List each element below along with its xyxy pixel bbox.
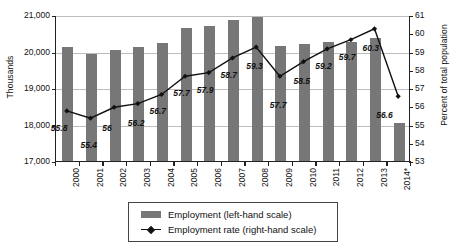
- y-axis-title-right: Percent of total population: [439, 20, 449, 130]
- x-axis-tick: [363, 161, 364, 166]
- x-axis-tick: [221, 161, 222, 166]
- x-axis-tick: [197, 161, 198, 166]
- legend-item-employment: Employment (left-hand scale): [129, 207, 337, 222]
- x-axis-label-2007: 2007: [237, 168, 247, 187]
- x-axis-tick: [315, 161, 316, 166]
- y-axis-tick-label-left: 20,000: [24, 47, 50, 57]
- data-label-2010: 58.5: [294, 76, 311, 86]
- data-label-2014: 56.6: [376, 110, 393, 120]
- data-label-2013: 60.3: [363, 43, 380, 53]
- chart-legend: Employment (left-hand scale) Employment …: [128, 202, 338, 242]
- data-point-marker-2001: [88, 116, 93, 121]
- y-axis-tick-label-right: 59: [415, 47, 424, 57]
- data-label-2007: 58.7: [221, 70, 238, 80]
- y-axis-tick-label-right: 58: [415, 65, 424, 75]
- legend-label-employment: Employment (left-hand scale): [168, 209, 292, 220]
- x-axis-label-2005: 2005: [189, 168, 199, 187]
- x-axis-tick: [79, 161, 80, 166]
- y-axis-tick-label-left: 17,000: [24, 156, 50, 166]
- y-axis-tick-label-right: 53: [415, 156, 424, 166]
- legend-item-employment-rate: Employment rate (right-hand scale): [129, 222, 337, 237]
- employment-rate-line-series: [55, 16, 410, 162]
- employment-chart: Thousands Percent of total population 17…: [0, 0, 462, 251]
- y-axis-tick-label-left: 21,000: [24, 10, 50, 20]
- x-axis-label-2003: 2003: [142, 168, 152, 187]
- data-label-2011: 59.2: [315, 61, 332, 71]
- x-axis-tick: [244, 161, 245, 166]
- y-axis-tick-label-right: 56: [415, 101, 424, 111]
- x-axis-label-2013: 2013: [379, 168, 389, 187]
- x-axis-tick: [410, 161, 411, 166]
- y-axis-tick-label-right: 60: [415, 28, 424, 38]
- data-label-2006: 57.9: [197, 85, 214, 95]
- x-axis-label-2001: 2001: [95, 168, 105, 187]
- data-label-2012: 59.7: [339, 52, 356, 62]
- data-label-2002: 56: [102, 123, 111, 133]
- data-point-marker-2000: [64, 108, 69, 113]
- data-label-2005: 57.7: [173, 88, 190, 98]
- x-axis-tick: [126, 161, 127, 166]
- x-axis-label-2011: 2011: [331, 168, 341, 186]
- y-axis-tick-label-left: 18,000: [24, 120, 50, 130]
- data-label-2001: 55.4: [81, 140, 98, 150]
- data-label-2009: 57.7: [270, 100, 287, 110]
- x-axis-label-2006: 2006: [213, 168, 223, 187]
- data-point-marker-2012: [348, 37, 353, 42]
- x-axis-label-2012: 2012: [355, 168, 365, 187]
- y-axis-title-left: Thousands: [5, 37, 15, 117]
- legend-label-employment-rate: Employment rate (right-hand scale): [168, 224, 316, 235]
- x-axis-tick: [292, 161, 293, 166]
- data-point-marker-2013: [372, 26, 377, 31]
- y-axis-tick-label-right: 61: [415, 10, 424, 20]
- x-axis-tick: [268, 161, 269, 166]
- x-axis-label-2009: 2009: [284, 168, 294, 187]
- data-point-marker-2014: [396, 94, 401, 99]
- data-label-2003: 56.2: [128, 118, 145, 128]
- x-axis-label-2004: 2004: [166, 168, 176, 187]
- x-axis-label-2008: 2008: [260, 168, 270, 187]
- x-axis-label-2014: 2014*: [402, 168, 412, 190]
- data-point-marker-2003: [135, 101, 140, 106]
- x-axis-tick: [150, 161, 151, 166]
- x-axis-tick: [339, 161, 340, 166]
- x-axis-tick: [173, 161, 174, 166]
- data-point-marker-2011: [325, 46, 330, 51]
- x-axis-label-2002: 2002: [118, 168, 128, 187]
- data-label-2000: 55.8: [51, 123, 68, 133]
- legend-bar-swatch-icon: [141, 211, 161, 218]
- y-axis-tick-label-right: 57: [415, 83, 424, 93]
- x-axis-label-2010: 2010: [308, 168, 318, 187]
- y-axis-tick-label-left: 19,000: [24, 83, 50, 93]
- x-axis-tick: [386, 161, 387, 166]
- y-axis-tick-label-right: 55: [415, 120, 424, 130]
- x-axis-tick: [55, 161, 56, 166]
- y-axis-tick-label-right: 54: [415, 138, 424, 148]
- data-point-marker-2002: [112, 105, 117, 110]
- data-label-2008: 59.3: [246, 61, 263, 71]
- legend-line-diamond-icon: [141, 226, 161, 233]
- data-label-2004: 56.7: [150, 106, 167, 116]
- x-axis-tick: [102, 161, 103, 166]
- x-axis-label-2000: 2000: [71, 168, 81, 187]
